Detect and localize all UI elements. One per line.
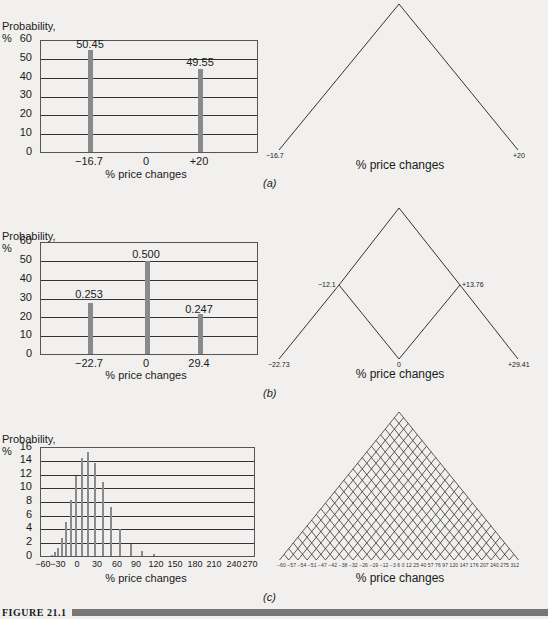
figure-caption: FIGURE 21.1 <box>2 607 66 618</box>
caption-rule <box>72 609 548 616</box>
binomial-lattice-c <box>0 0 548 619</box>
panel-tag-c: (c) <box>263 591 276 603</box>
x-axis-title-tree-c: % price changes <box>356 571 445 585</box>
lattice-terminal-labels: −60 −57 −54 −51 −47 −42 −38 −32 −26 −19 … <box>277 562 519 568</box>
